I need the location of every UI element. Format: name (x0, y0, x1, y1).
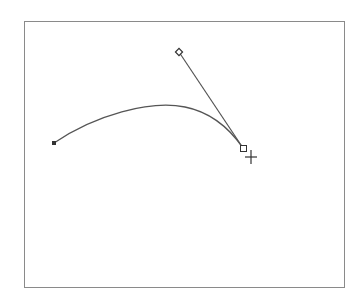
bezier-curve[interactable] (54, 105, 243, 148)
crosshair-cursor-icon (245, 150, 257, 164)
start-anchor-point[interactable] (52, 141, 56, 145)
canvas-overlay (0, 0, 361, 303)
direction-line (179, 52, 243, 148)
direction-handle-icon[interactable] (175, 48, 182, 55)
end-anchor-point[interactable] (241, 146, 247, 152)
